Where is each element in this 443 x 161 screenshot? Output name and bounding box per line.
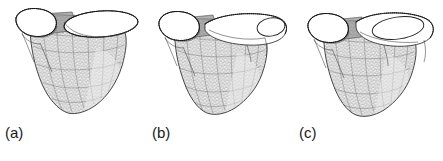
panel-label-b: (b): [152, 124, 170, 142]
figure-panel-a: (a): [0, 0, 148, 161]
mesh-render-a: [0, 0, 148, 125]
figure-panel-b: (b): [147, 0, 295, 161]
panel-label-c: (c): [299, 124, 317, 142]
figure-panel-c: (c): [294, 0, 442, 161]
panel-label-a: (a): [5, 124, 23, 142]
mesh-render-b: [147, 0, 295, 125]
outflow-opening-a: [63, 8, 139, 39]
figure-root: (a): [0, 0, 443, 161]
mesh-render-c: [294, 0, 442, 125]
